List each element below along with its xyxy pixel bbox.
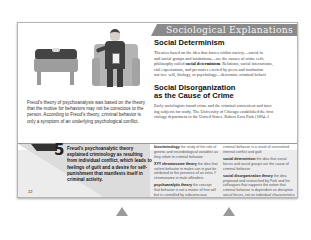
- illustration-caption: Freud's theory of psychoanalysis was bas…: [27, 100, 149, 125]
- glossary-item: social disorganization theory the idea p…: [223, 174, 295, 198]
- text-span: . Relations, social interactions,: [220, 61, 273, 66]
- doctor-leg: [117, 69, 123, 87]
- glossary-item: psychoanalytic theory the concept that b…: [154, 183, 218, 198]
- armchair-arm: [92, 58, 100, 86]
- glossary-definition: criminal behavior is a result of unresol…: [223, 145, 289, 154]
- page-number: 22: [28, 189, 32, 194]
- armchair-arm: [132, 58, 140, 86]
- glossary-item: criminal behavior is a result of unresol…: [223, 145, 295, 155]
- glossary-column-1: biocriminology the study of the role of …: [154, 145, 218, 198]
- couch-icon: [34, 58, 78, 72]
- heading-social-determinism: Social Determinism: [154, 39, 224, 47]
- clipboard-icon: [112, 53, 120, 64]
- glossary-term: social disorganization theory: [223, 174, 273, 178]
- triangle-marker-icon: [223, 207, 235, 216]
- glossary-item: social determinism the idea that social …: [223, 157, 295, 171]
- couch-leg: [70, 71, 74, 85]
- social-disorganization-paragraph: Early sociologists found crime and the c…: [154, 103, 298, 120]
- freud-illustration: [26, 25, 146, 87]
- text-span: philosophy called: [154, 61, 186, 66]
- textbook-page: Freud's theory of psychoanalysis was bas…: [17, 22, 298, 198]
- glossary-term: social determinism: [223, 157, 256, 161]
- glossary-term: XYY chromosome theory: [154, 162, 197, 166]
- key-point-number: 5: [54, 141, 64, 159]
- key-point-text: Freud's psychoanalytic theory explained …: [67, 146, 152, 183]
- text-line: not free will, biology, or psychology—de…: [154, 72, 298, 78]
- doctor-head: [110, 29, 120, 41]
- social-determinism-paragraph: Theories based on the idea that forces w…: [154, 50, 298, 78]
- heading-line: as the Cause of Crime: [154, 92, 235, 100]
- glossary-item: biocriminology the study of the role of …: [154, 145, 218, 159]
- glossary-column-2: criminal behavior is a result of unresol…: [223, 145, 295, 198]
- glossary-term: biocriminology: [154, 145, 180, 149]
- heading-social-disorganization: Social Disorganization as the Cause of C…: [154, 84, 235, 100]
- patient-head: [52, 48, 60, 52]
- glossary-item: XYY chromosome theory the idea that viol…: [154, 162, 218, 181]
- text-line: ciology department in the United States.…: [154, 114, 298, 120]
- glossary-term: psychoanalytic theory: [154, 183, 192, 187]
- triangle-marker-icon: [116, 207, 128, 216]
- couch-leg: [37, 71, 41, 85]
- section-title: Sociological Explanations: [166, 24, 293, 36]
- key-term: social determinism: [186, 61, 221, 66]
- doctor-leg: [107, 69, 113, 87]
